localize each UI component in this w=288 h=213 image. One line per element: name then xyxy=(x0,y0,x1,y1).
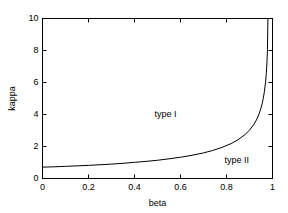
x-tick-label: 0.2 xyxy=(69,183,109,192)
y-tick-label: 4 xyxy=(33,110,38,119)
data-series-group xyxy=(43,19,268,168)
x-tick-label: 0 xyxy=(23,183,63,192)
y-tick-label: 0 xyxy=(33,174,38,183)
y-tick-label: 10 xyxy=(28,14,38,23)
region-label-1: type II xyxy=(207,156,267,165)
y-tick-label: 8 xyxy=(33,46,38,55)
region-label-0: type I xyxy=(136,110,196,119)
y-tick-label: 2 xyxy=(33,142,38,151)
y-tick-label: 6 xyxy=(33,78,38,87)
x-axis-title: beta xyxy=(128,199,188,208)
x-tick-label: 0.6 xyxy=(161,183,201,192)
x-tick-label: 0.4 xyxy=(115,183,155,192)
y-axis-title: kappa xyxy=(8,74,17,122)
x-tick-label: 1 xyxy=(253,183,288,192)
x-tick-label: 0.8 xyxy=(207,183,247,192)
chart-figure: 0246810 00.20.40.60.81 kappa beta type I… xyxy=(0,0,287,213)
series-line-0 xyxy=(43,19,268,168)
